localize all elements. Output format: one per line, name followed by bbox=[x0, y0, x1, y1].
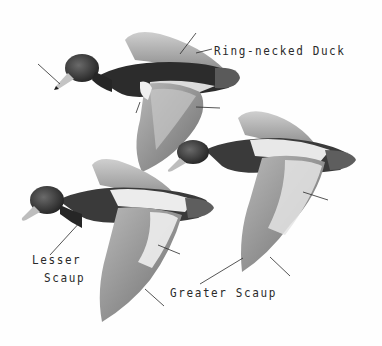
label-greater-scaup: Greater Scaup bbox=[170, 285, 277, 300]
label-lesser-scaup-line2: Scaup bbox=[44, 270, 85, 285]
greater-scaup bbox=[168, 111, 356, 272]
label-lesser-scaup-line1: Lesser bbox=[32, 252, 81, 267]
label-ring-necked-duck: Ring-necked Duck bbox=[214, 43, 346, 58]
duck-illustration: Ring-necked Duck Lesser Scaup Greater Sc… bbox=[0, 0, 382, 346]
